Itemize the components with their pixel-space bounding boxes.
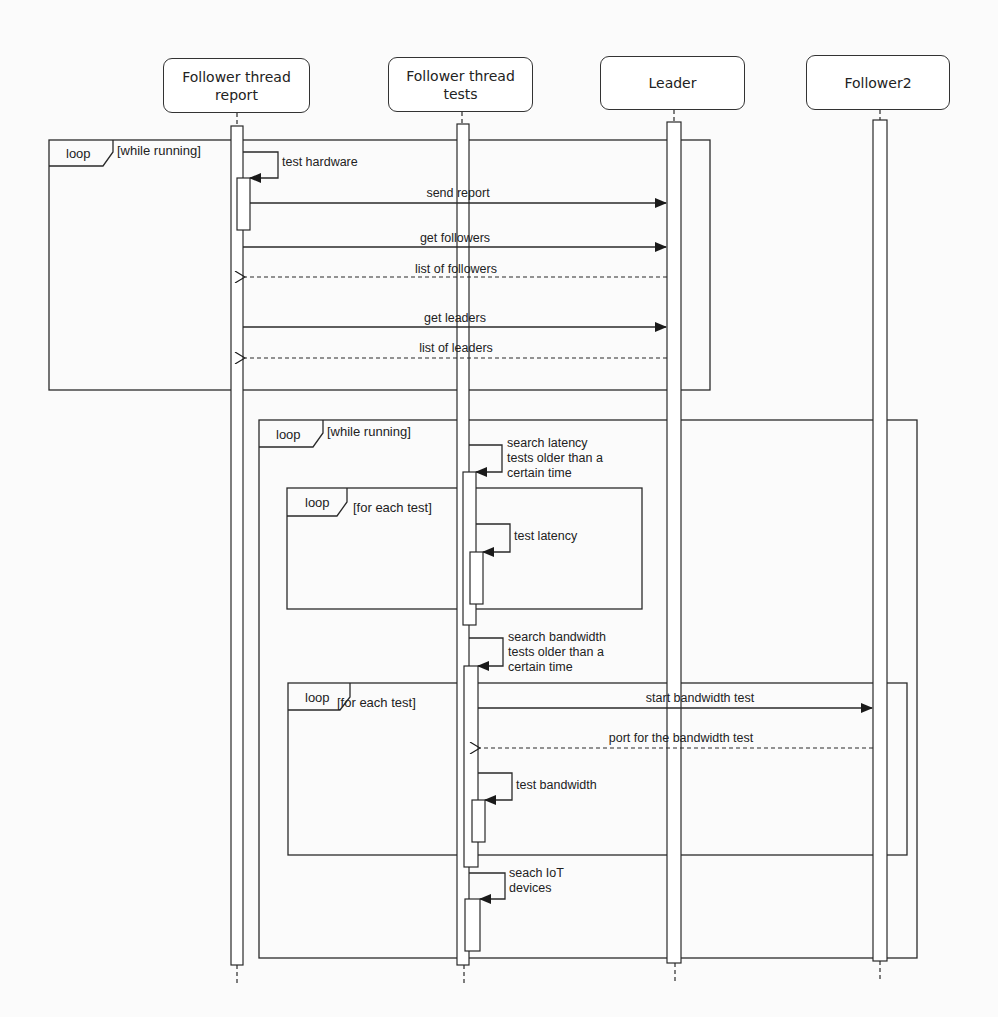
lifeline-stubs [237,110,880,985]
lifeline-head-follower-thread-report[interactable]: Follower thread report [163,58,310,113]
loop3-operator: loop [305,495,330,510]
loop3-guard: [for each test] [353,500,432,515]
loop1-operator: loop [66,146,91,161]
self-call-search-bandwidth [469,638,503,666]
msg-label-port-for-bandwidth-test: port for the bandwidth test [609,731,754,746]
msg-label-send-report: send report [426,186,489,201]
self-call-test-latency [476,524,510,552]
lifeline-head-leader[interactable]: Leader [600,56,745,110]
msg-label-start-bandwidth-test: start bandwidth test [646,691,754,706]
loop4-operator: loop [305,690,330,705]
sequence-diagram: Follower thread report Follower thread t… [0,0,998,1017]
self-call-search-latency [469,445,502,472]
lifeline-head-follower2[interactable]: Follower2 [806,55,950,110]
msg-label-list-of-leaders: list of leaders [419,341,493,356]
loop2-guard: [while running] [327,424,411,439]
msg-label-list-of-followers: list of followers [415,262,497,277]
loop4-guard: [for each test] [337,695,416,710]
msg-label-test-hardware: test hardware [282,155,358,170]
msg-label-test-latency: test latency [514,529,577,544]
msg-label-get-leaders: get leaders [424,311,486,326]
msg-label-search-bandwidth: search bandwidth tests older than a cert… [508,630,606,675]
self-call-search-iot [469,873,505,899]
self-call-test-hardware [243,152,278,178]
msg-label-search-latency: search latency tests older than a certai… [507,436,603,481]
lifeline-head-follower-thread-tests[interactable]: Follower thread tests [388,57,533,112]
loop-frame-1 [49,140,710,390]
msg-label-test-bandwidth: test bandwidth [516,778,597,793]
msg-label-search-iot-devices: seach IoT devices [509,866,564,896]
self-call-test-bandwidth [478,773,512,800]
loop1-guard: [while running] [117,143,201,158]
loop2-operator: loop [276,427,301,442]
msg-label-get-followers: get followers [420,231,490,246]
